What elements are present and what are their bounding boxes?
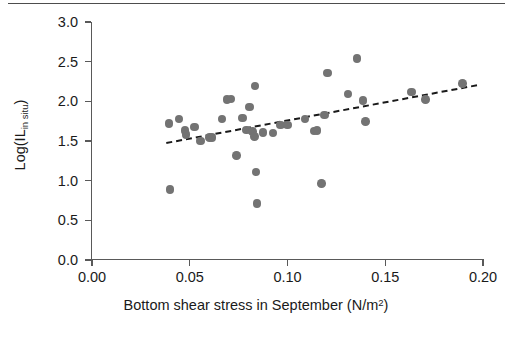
y-axis-label-subscript: in situ bbox=[19, 104, 30, 129]
y-axis-label: Log(ILin situ) bbox=[8, 45, 34, 225]
scatter-point bbox=[259, 128, 268, 137]
y-axis-tick-label: 2.5 bbox=[38, 55, 78, 70]
scatter-point bbox=[232, 151, 241, 160]
scatter-point bbox=[353, 54, 362, 63]
y-axis-tick-label: 3.0 bbox=[38, 15, 78, 30]
scatter-point bbox=[238, 114, 247, 123]
scatter-point bbox=[320, 111, 329, 120]
y-axis-tick bbox=[85, 220, 91, 221]
scatter-point bbox=[317, 179, 326, 188]
scatter-point bbox=[190, 123, 199, 132]
x-axis-tick-label: 0.20 bbox=[448, 270, 512, 285]
x-axis-tick-label: 0.10 bbox=[253, 270, 323, 285]
x-axis-label-base: Bottom shear stress in September (N/m bbox=[124, 297, 379, 313]
scatter-point bbox=[359, 96, 368, 105]
figure-container: 0.00.51.01.52.02.53.0 0.000.050.100.150.… bbox=[0, 0, 512, 337]
scatter-point bbox=[208, 133, 217, 142]
x-axis-label: Bottom shear stress in September (N/m2) bbox=[0, 297, 512, 313]
y-axis-tick-label: 1.5 bbox=[38, 134, 78, 149]
scatter-point bbox=[250, 132, 259, 141]
scatter-point bbox=[165, 119, 174, 128]
x-axis-tick-label: 0.00 bbox=[57, 270, 127, 285]
scatter-point bbox=[253, 199, 262, 208]
scatter-point bbox=[421, 95, 430, 104]
scatter-point bbox=[166, 185, 175, 194]
x-axis-tick-label: 0.05 bbox=[155, 270, 225, 285]
y-axis-label-base: Log(IL bbox=[12, 129, 28, 170]
y-axis-label-tail: ) bbox=[12, 100, 28, 105]
scatter-point bbox=[227, 95, 236, 104]
scatter-point bbox=[283, 121, 292, 130]
y-axis-tick bbox=[85, 259, 91, 260]
y-axis-tick bbox=[85, 101, 91, 102]
scatter-point bbox=[245, 103, 254, 112]
scatter-point bbox=[301, 115, 310, 124]
y-axis-tick-label: 0.5 bbox=[38, 213, 78, 228]
scatter-point bbox=[251, 82, 260, 91]
x-axis-tick bbox=[287, 260, 288, 266]
scatter-point bbox=[269, 129, 278, 138]
scatter-point bbox=[458, 79, 467, 88]
x-axis-label-tail: ) bbox=[384, 297, 389, 313]
x-axis-tick-label: 0.15 bbox=[350, 270, 420, 285]
scatter-point bbox=[407, 88, 416, 97]
scatter-point bbox=[361, 117, 370, 126]
y-axis-tick-label: 1.0 bbox=[38, 174, 78, 189]
scatter-point bbox=[182, 130, 191, 139]
scatter-point bbox=[218, 115, 227, 124]
y-axis-tick bbox=[85, 140, 91, 141]
x-axis-tick bbox=[385, 260, 386, 266]
y-axis-tick bbox=[85, 61, 91, 62]
x-axis-tick bbox=[91, 260, 92, 266]
scatter-point bbox=[175, 115, 184, 124]
scatter-plot-area bbox=[92, 22, 483, 260]
scatter-point bbox=[252, 168, 261, 177]
y-axis-tick-label: 0.0 bbox=[38, 253, 78, 268]
scatter-point bbox=[323, 69, 332, 78]
x-axis-tick bbox=[189, 260, 190, 266]
y-axis-tick bbox=[85, 21, 91, 22]
scatter-point bbox=[313, 126, 322, 135]
scatter-point bbox=[196, 137, 205, 146]
x-axis-tick bbox=[482, 260, 483, 266]
top-divider-rule bbox=[8, 3, 505, 4]
y-axis-tick bbox=[85, 180, 91, 181]
scatter-point bbox=[344, 90, 353, 99]
y-axis-tick-label: 2.0 bbox=[38, 94, 78, 109]
